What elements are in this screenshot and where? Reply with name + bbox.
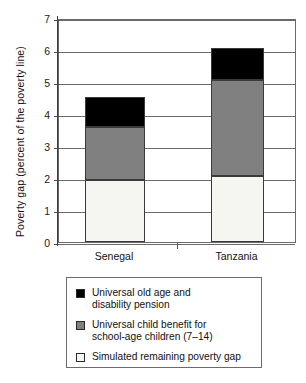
legend-label-line-2: disability pension [92, 299, 191, 311]
bar-senegal [85, 18, 145, 242]
y-tick-2 [54, 180, 59, 181]
legend-item-2: Universal child benefit forschool-age ch… [76, 319, 213, 344]
white-swatch [76, 353, 85, 362]
gray-swatch [76, 321, 85, 330]
category-label-senegal: Senegal [54, 250, 174, 262]
y-tick-1 [54, 212, 59, 213]
category-axis-tick [177, 243, 178, 249]
bar-segment-tanzania-universal-child-benefit-for-school-age-children-7-14 [211, 80, 264, 176]
y-tick-0 [54, 244, 59, 245]
bar-segment-tanzania-universal-old-age-and-disability-pension [211, 48, 264, 80]
legend-item-3: Simulated remaining poverty gap [76, 351, 241, 363]
y-tick-label-6: 6 [28, 46, 50, 56]
y-tick-label-1: 1 [28, 206, 50, 216]
y-tick-label-0: 0 [28, 238, 50, 248]
bar-segment-tanzania-simulated-remaining-poverty-gap [211, 176, 264, 242]
chart-legend: Universal old age anddisability pensionU… [66, 277, 262, 368]
y-tick-label-7: 7 [28, 14, 50, 24]
legend-label-line-1: Universal old age and [92, 287, 191, 299]
y-tick-label-3: 3 [28, 142, 50, 152]
y-tick-label-4: 4 [28, 110, 50, 120]
y-tick-6 [54, 52, 59, 53]
y-axis-title: Poverty gap (percent of the poverty line… [14, 46, 26, 237]
y-tick-5 [54, 84, 59, 85]
y-tick-3 [54, 148, 59, 149]
category-label-tanzania: Tanzania [177, 250, 297, 262]
bar-tanzania [211, 18, 264, 242]
bar-segment-senegal-simulated-remaining-poverty-gap [85, 180, 145, 242]
plot-area [58, 19, 296, 243]
y-tick-4 [54, 116, 59, 117]
legend-label-3: Simulated remaining poverty gap [92, 351, 241, 363]
stacked-bar-chart-figure: Poverty gap (percent of the poverty line… [0, 0, 306, 383]
legend-label-1: Universal old age anddisability pension [92, 287, 191, 312]
y-tick-7 [54, 20, 59, 21]
y-tick-label-5: 5 [28, 78, 50, 88]
bar-segment-senegal-universal-old-age-and-disability-pension [85, 97, 145, 126]
legend-label-line-1: Universal child benefit for [92, 319, 213, 331]
legend-label-line-2: school-age children (7–14) [92, 331, 213, 343]
legend-label-2: Universal child benefit forschool-age ch… [92, 319, 213, 344]
black-swatch [76, 289, 85, 298]
legend-label-line-1: Simulated remaining poverty gap [92, 351, 241, 363]
bar-segment-senegal-universal-child-benefit-for-school-age-children-7-14 [85, 127, 145, 180]
legend-item-1: Universal old age anddisability pension [76, 287, 191, 312]
y-tick-label-2: 2 [28, 174, 50, 184]
